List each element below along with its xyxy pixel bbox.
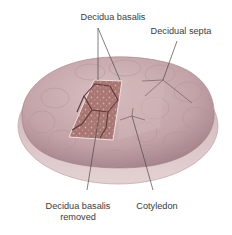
placenta-body — [22, 57, 214, 168]
label-decidua-basalis-removed-line2: removed — [60, 212, 96, 222]
placenta-diagram: Decidua basalis Decidual septa Decidua b… — [0, 0, 232, 235]
label-decidua-basalis-removed-line1: Decidua basalis — [46, 201, 111, 211]
label-decidua-basalis: Decidua basalis — [81, 12, 146, 22]
label-decidual-septa: Decidual septa — [151, 26, 213, 36]
label-cotyledon: Cotyledon — [136, 201, 177, 211]
